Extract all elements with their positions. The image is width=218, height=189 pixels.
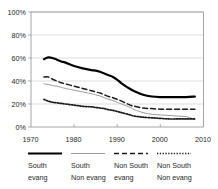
legend-item-non-south-non-evang: Non South Non evang	[157, 161, 192, 182]
y-tick-label: 40%	[12, 77, 27, 86]
x-tick-label: 1970	[23, 135, 39, 144]
legend-label-line1: Non South	[114, 161, 148, 170]
x-axis-labels: 1970 1980 1990 2000 2010	[23, 135, 211, 144]
legend-label-line2: evang	[28, 173, 48, 182]
x-tick-label: 1990	[109, 135, 125, 144]
series-line-south-non-evang	[44, 84, 195, 120]
y-tick-label: 80%	[12, 31, 27, 40]
legend-label-line1: South	[28, 161, 47, 170]
legend-label-line1: Non South	[157, 161, 191, 170]
y-tick-label: 100%	[8, 8, 27, 17]
y-axis-labels: 100% 80% 60% 40% 20% 0%	[8, 8, 27, 132]
line-chart: 100% 80% 60% 40% 20% 0% 1970 1980 1990 2…	[0, 0, 218, 189]
legend-item-south-non-evang: South Non evang	[71, 161, 106, 182]
x-tick-label: 2000	[152, 135, 168, 144]
y-tick-label: 60%	[12, 54, 27, 63]
series-group	[44, 57, 195, 119]
x-tick-marks	[74, 124, 160, 127]
y-tick-label: 0%	[16, 123, 27, 132]
chart-legend: South evang South Non evang Non South ev…	[28, 154, 192, 183]
legend-label-line2: Non evang	[157, 173, 192, 182]
x-tick-label: 2010	[195, 135, 211, 144]
legend-item-south-evang: South evang	[28, 161, 48, 182]
legend-label-line2: Non evang	[71, 173, 106, 182]
series-line-south-evang	[44, 57, 195, 97]
gridlines	[31, 12, 204, 104]
chart-container: 100% 80% 60% 40% 20% 0% 1970 1980 1990 2…	[0, 0, 218, 189]
x-tick-label: 1980	[66, 135, 82, 144]
y-tick-marks	[28, 12, 31, 127]
legend-label-line1: South	[71, 161, 90, 170]
legend-label-line2: evang	[114, 173, 134, 182]
y-tick-label: 20%	[12, 100, 27, 109]
legend-item-non-south-evang: Non South evang	[114, 161, 148, 182]
